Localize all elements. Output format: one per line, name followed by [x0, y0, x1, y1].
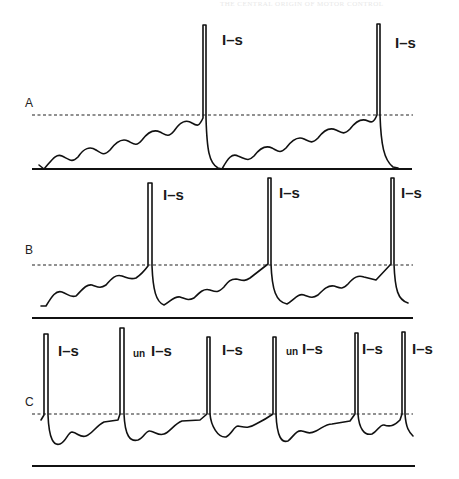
- spike-label-b-3: I–s: [401, 184, 422, 201]
- membrane-potential-figure: A I–s I–s B I–s I–s I–s C I–s un I–s I–s…: [0, 0, 459, 479]
- spike-label-b-2: I–s: [279, 184, 300, 201]
- panel-letter-a: A: [25, 96, 33, 110]
- spike-label-c-2: I–s: [151, 342, 172, 359]
- spike-label-a-2: I–s: [395, 34, 416, 51]
- un-label-c-4: un: [286, 346, 298, 357]
- panel-c: C I–s un I–s I–s un I–s I–s I–s: [25, 328, 433, 466]
- spike-label-c-3: I–s: [222, 341, 243, 358]
- panel-letter-c: C: [25, 395, 34, 409]
- trace-b: [41, 178, 408, 306]
- panel-letter-b: B: [25, 243, 33, 257]
- spike-label-c-6: I–s: [412, 340, 433, 357]
- spike-label-b-1: I–s: [163, 186, 184, 203]
- un-label-c-2: un: [133, 348, 145, 359]
- spike-label-c-5: I–s: [362, 340, 383, 357]
- spike-label-c-4: I–s: [302, 340, 323, 357]
- panel-b: B I–s I–s I–s: [25, 178, 422, 318]
- panel-a: A I–s I–s: [25, 24, 416, 169]
- trace-a: [39, 24, 398, 169]
- spike-label-a-1: I–s: [222, 31, 243, 48]
- spike-label-c-1: I–s: [58, 342, 79, 359]
